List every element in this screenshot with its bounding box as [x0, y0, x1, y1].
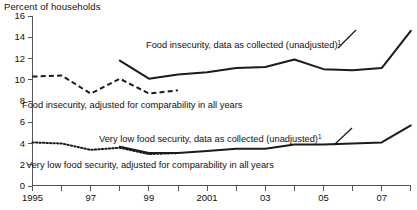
y-tick-label: 0 — [20, 180, 25, 191]
x-axis-tick-labels: 1995 97 99 2001 03 05 07 — [22, 192, 387, 203]
leader-line-very-low — [334, 128, 352, 145]
x-tick-label: 99 — [144, 192, 155, 203]
chart-container: Percent of households 0 2 4 6 8 10 12 — [0, 0, 417, 210]
x-tick-label: 03 — [260, 192, 271, 203]
y-tick-label: 14 — [14, 31, 25, 42]
annotation-very-low-adjusted: Very low food security, adjusted for com… — [26, 160, 274, 170]
x-tick-label: 07 — [376, 192, 387, 203]
x-tick-label: 05 — [318, 192, 329, 203]
x-tick-label: 2001 — [197, 192, 218, 203]
annotation-food-insecurity-unadjusted: Food insecurity, data as collected (unad… — [146, 39, 342, 50]
x-tick-label: 97 — [85, 192, 96, 203]
y-tick-label: 2 — [20, 159, 25, 170]
y-tick-label: 6 — [20, 116, 25, 127]
y-tick-label: 4 — [20, 138, 25, 149]
y-tick-label: 16 — [14, 10, 25, 21]
x-axis-ticks — [33, 186, 411, 191]
chart-svg: 0 2 4 6 8 10 12 14 16 — [0, 0, 417, 210]
y-tick-label: 10 — [14, 74, 25, 85]
annotation-very-low-unadjusted: Very low food security, data as collecte… — [99, 133, 322, 144]
series-line-food-insecurity-unadjusted — [120, 31, 411, 79]
x-tick-label: 1995 — [22, 192, 43, 203]
y-tick-label: 12 — [14, 53, 25, 64]
annotation-food-insecurity-adjusted: Food insecurity, adjusted for comparabil… — [22, 100, 243, 110]
